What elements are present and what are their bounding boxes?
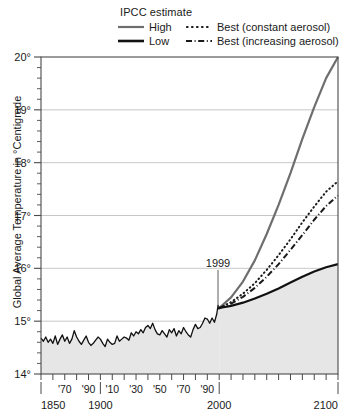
svg-text:'10: '10 [105,383,119,395]
svg-text:'70: '70 [58,383,72,395]
svg-text:18°: 18° [14,157,31,169]
svg-text:20°: 20° [14,51,31,63]
plot-svg: 14°15°16°17°18°19°20° '70'90'10'30'50'70… [0,0,353,412]
svg-text:'90: '90 [200,383,214,395]
svg-text:14°: 14° [14,368,31,380]
x-axis-ticks: '70'90'10'30'50'70'901850190020002100 [41,374,338,411]
svg-text:15°: 15° [14,315,31,327]
chart-figure: IPCC estimate High [0,0,353,412]
svg-text:1999: 1999 [206,257,230,269]
svg-text:17°: 17° [14,210,31,222]
svg-text:'70: '70 [177,383,191,395]
y-axis-ticks: 14°15°16°17°18°19°20° [14,51,41,380]
svg-text:19°: 19° [14,104,31,116]
svg-text:16°: 16° [14,262,31,274]
svg-text:1900: 1900 [88,399,112,411]
svg-text:'30: '30 [129,383,143,395]
svg-text:1850: 1850 [41,399,65,411]
svg-text:2000: 2000 [207,399,231,411]
svg-text:2100: 2100 [314,399,338,411]
svg-text:'90: '90 [82,383,96,395]
svg-text:'50: '50 [153,383,167,395]
chart-canvas: 14°15°16°17°18°19°20° '70'90'10'30'50'70… [0,0,353,412]
